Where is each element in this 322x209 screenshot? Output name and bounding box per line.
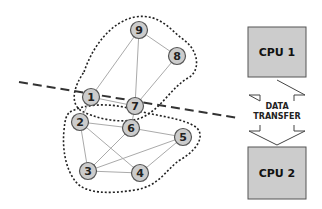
node-label: 9 xyxy=(135,24,143,37)
node-3: 3 xyxy=(80,163,97,180)
node-label: 7 xyxy=(131,100,139,113)
node-9: 9 xyxy=(131,22,148,39)
nodes: 1 2 3 4 5 6 7 8 xyxy=(72,22,192,182)
node-1: 1 xyxy=(83,89,100,106)
edge-9-1 xyxy=(91,30,139,97)
node-label: 6 xyxy=(127,122,135,135)
node-4: 4 xyxy=(132,165,149,182)
arrow-down-icon xyxy=(249,125,305,145)
node-label: 1 xyxy=(87,91,95,104)
node-8: 8 xyxy=(169,48,186,65)
node-label: 4 xyxy=(136,167,144,180)
node-2: 2 xyxy=(72,114,89,131)
node-7: 7 xyxy=(127,98,144,115)
edge-7-8 xyxy=(135,56,177,106)
node-5: 5 xyxy=(175,129,192,146)
node-6: 6 xyxy=(123,120,140,137)
node-label: 5 xyxy=(179,131,187,144)
cpu-1-box: CPU 1 xyxy=(248,27,306,77)
arrow-up-icon xyxy=(249,80,305,101)
transfer-label-line1: DATA xyxy=(265,102,289,111)
partition-diagram: 1 2 3 4 5 6 7 8 xyxy=(0,0,322,209)
cpu-2-label: CPU 2 xyxy=(259,167,296,180)
edge-9-7 xyxy=(135,30,139,106)
node-label: 3 xyxy=(84,165,92,178)
node-label: 8 xyxy=(173,50,181,63)
node-label: 2 xyxy=(76,116,84,129)
cpu-2-box: CPU 2 xyxy=(248,147,306,199)
transfer-label-line2: TRANSFER xyxy=(253,112,300,121)
cpu-1-label: CPU 1 xyxy=(259,46,296,59)
